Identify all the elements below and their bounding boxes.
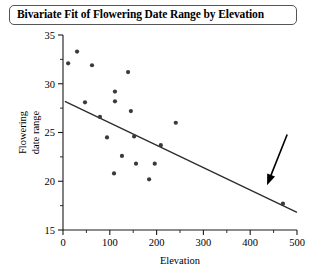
x-tick-label: 0: [60, 237, 65, 248]
scatter-plot: 01002003004005001520253035ElevationFlowe…: [0, 0, 314, 271]
y-axis-title-line2: date range: [30, 110, 41, 154]
data-point: [126, 70, 130, 74]
y-tick-label: 25: [45, 127, 56, 138]
x-tick-label: 200: [149, 237, 165, 248]
data-point: [134, 162, 138, 166]
data-point: [98, 115, 102, 119]
data-point: [113, 99, 117, 103]
data-point: [174, 121, 178, 125]
data-point: [83, 100, 87, 104]
data-point: [281, 202, 285, 206]
data-point: [153, 162, 157, 166]
y-tick-label: 15: [45, 225, 56, 236]
y-tick-label: 35: [45, 30, 56, 41]
x-tick-label: 400: [242, 237, 258, 248]
x-axis-title: Elevation: [160, 255, 201, 266]
chart-page: Bivariate Fit of Flowering Date Range by…: [0, 0, 314, 271]
data-point: [112, 171, 116, 175]
data-point: [105, 135, 109, 139]
data-point: [66, 61, 70, 65]
data-point: [120, 154, 124, 158]
y-tick-label: 20: [45, 176, 56, 187]
data-point: [129, 109, 133, 113]
x-tick-label: 500: [289, 237, 305, 248]
data-point: [147, 177, 151, 181]
data-point: [90, 63, 94, 67]
data-point: [75, 49, 79, 53]
data-point: [132, 134, 136, 138]
data-point: [113, 89, 117, 93]
data-point: [159, 143, 163, 147]
axis-lines: [63, 35, 297, 230]
annotation-arrow-head: [267, 173, 275, 185]
y-tick-label: 30: [45, 79, 56, 90]
x-tick-label: 300: [196, 237, 212, 248]
y-axis-title-line1: Flowering: [17, 110, 28, 154]
x-tick-label: 100: [102, 237, 118, 248]
annotation-arrow-shaft: [270, 134, 288, 178]
y-axis-title: Floweringdate range: [17, 110, 40, 154]
